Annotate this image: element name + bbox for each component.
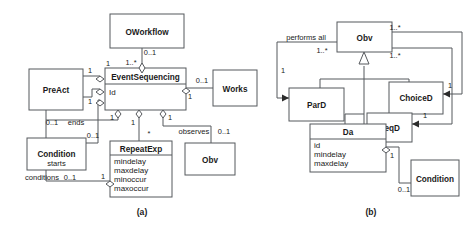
class-repeatexp[interactable]: RepeatExp mindelay maxdelay minoccur max…: [110, 141, 172, 197]
class-choiced-title: ChoiceD: [399, 94, 432, 103]
arrowhead-seqd: [412, 121, 419, 128]
class-da[interactable]: Da id mindelay maxdelay: [310, 124, 386, 172]
class-eventsequencing[interactable]: EventSequencing Id: [105, 68, 186, 110]
role-performs-all: performs all: [286, 33, 326, 42]
class-repeatexp-attr-minoccur: minoccur: [114, 175, 147, 184]
aggregation-diamond-repeatexp: [136, 110, 142, 118]
aggregation-diamond-ends: [115, 110, 121, 118]
aggregation-diamond-observes: [160, 110, 166, 118]
class-repeatexp-attr-maxdelay: maxdelay: [114, 166, 148, 175]
class-oworkflow-title: OWorkflow: [125, 28, 169, 37]
class-obv-a-title: Obv: [202, 156, 218, 165]
class-eventsequencing-attr-id: Id: [109, 88, 116, 97]
role-ends: ends: [68, 118, 85, 127]
role-starts: starts: [47, 159, 66, 168]
mult-conditions-1: 1: [101, 172, 105, 181]
class-condition-a-title: Condition: [37, 150, 75, 159]
class-choiced[interactable]: ChoiceD: [389, 82, 443, 114]
class-works-title: Works: [223, 85, 248, 94]
mult-b-pard-1: 1: [281, 66, 285, 75]
mult-b-da-1: 1: [390, 151, 394, 160]
mult-b-performs-1n: 1..*: [316, 46, 327, 55]
class-condition-b-title: Condition: [416, 175, 454, 184]
mult-starts-01: 0..1: [87, 131, 99, 140]
mult-repeatexp-star: *: [148, 129, 151, 138]
class-obv-a[interactable]: Obv: [185, 143, 235, 175]
class-repeatexp-attr-mindelay: mindelay: [114, 157, 146, 166]
class-works[interactable]: Works: [213, 70, 257, 106]
class-preact[interactable]: PreAct: [29, 69, 83, 110]
uml-diagram-svg: OWorkflow EventSequencing Id PreAct Work…: [0, 0, 470, 229]
class-pard[interactable]: ParD: [289, 88, 344, 121]
mult-works-01: 0..1: [196, 76, 208, 85]
mult-b-obv-top-1n: 1..*: [389, 23, 400, 32]
mult-b-obv-bottom-1n: 1..*: [389, 51, 400, 60]
mult-preact-right-1: 1: [88, 66, 92, 75]
mult-b-choiced-1: 1: [448, 81, 452, 90]
aggregation-diamond-preact-upper: [96, 76, 104, 82]
class-da-title: Da: [343, 128, 354, 137]
caption-a: (a): [137, 207, 148, 217]
mult-eventsequencing-right-1: 1: [188, 92, 192, 101]
class-preact-title: PreAct: [43, 86, 70, 95]
class-da-attr-maxdelay: maxdelay: [314, 159, 348, 168]
class-eventsequencing-title: EventSequencing: [111, 73, 180, 82]
class-obv-b-title: Obv: [357, 34, 373, 43]
class-da-attr-id: id: [314, 141, 320, 150]
class-da-attr-mindelay: mindelay: [314, 150, 346, 159]
mult-eventsequencing-1n: 1..*: [125, 58, 136, 67]
mult-obv-01: 0..1: [218, 127, 230, 136]
aggregation-diamond-starts: [96, 100, 104, 106]
class-pard-title: ParD: [307, 101, 326, 110]
mult-observes-1: 1: [168, 113, 172, 122]
arrowhead-choiced: [443, 91, 450, 98]
mult-ends-01: 0..1: [46, 118, 58, 127]
figure-canvas: OWorkflow EventSequencing Id PreAct Work…: [0, 0, 470, 229]
mult-eventsequencing-left-1: 1: [106, 59, 110, 68]
arrowhead-pard: [282, 95, 289, 102]
mult-conditions-01: 0..1: [64, 173, 76, 182]
mult-b-condition-01: 0..1: [398, 185, 410, 194]
role-observes: observes: [179, 127, 210, 136]
role-conditions: conditions: [25, 173, 59, 182]
mult-preact-lower-1: 1: [88, 97, 92, 106]
class-repeatexp-title: RepeatExp: [120, 145, 162, 154]
class-oworkflow[interactable]: OWorkflow: [110, 14, 184, 48]
aggregation-diamond-preact-lower: [96, 89, 104, 95]
class-repeatexp-attr-maxoccur: maxoccur: [114, 184, 149, 193]
class-condition-b[interactable]: Condition: [411, 160, 459, 196]
mult-b-seqd-1: 1: [423, 111, 427, 120]
mult-ends-1: 1: [110, 113, 114, 122]
caption-b: (b): [366, 207, 377, 217]
mult-oworkflow-01: 0..1: [144, 48, 156, 57]
mult-repeatexp-1: 1: [131, 118, 135, 127]
class-obv-b[interactable]: Obv: [337, 22, 392, 52]
generalization-triangle-obv: [359, 52, 369, 64]
